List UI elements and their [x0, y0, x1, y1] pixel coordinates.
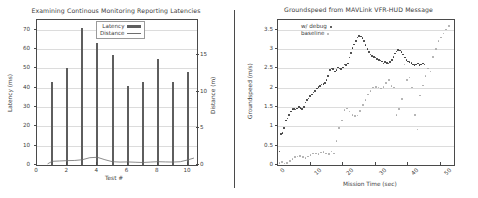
data-point-baseline [365, 99, 367, 101]
data-point-baseline [294, 156, 296, 158]
data-point-baseline [443, 33, 445, 35]
x-tick-mark [66, 162, 67, 165]
data-point-wdebug [309, 95, 311, 97]
data-point-baseline [346, 108, 348, 110]
data-point-wdebug [363, 40, 365, 42]
data-point-wdebug [381, 61, 383, 63]
data-point-wdebug [353, 44, 355, 46]
data-point-baseline [425, 75, 427, 77]
y-tick-mark [275, 125, 278, 126]
data-point-baseline [414, 114, 416, 116]
data-point-wdebug [402, 54, 404, 56]
x-tick-mark [157, 162, 158, 165]
data-point-baseline [409, 77, 411, 79]
x-tick-mark [407, 162, 408, 165]
x-tick-mark [440, 162, 441, 165]
data-point-wdebug [316, 88, 318, 90]
data-point-wdebug [401, 51, 403, 53]
data-point-baseline [284, 163, 286, 165]
y2-tick-label: 5 [200, 124, 204, 130]
data-point-baseline [307, 156, 309, 158]
latency-chart-title: Examining Continous Monitoring Reporting… [0, 7, 232, 14]
data-point-baseline [380, 88, 382, 90]
data-point-wdebug [394, 53, 396, 55]
data-point-wdebug [305, 102, 307, 104]
data-point-baseline [336, 140, 338, 142]
y2-tick-label: 15 [200, 51, 207, 57]
y-tick-mark [275, 106, 278, 107]
y2-tick-mark [196, 164, 199, 165]
data-point-wdebug [288, 114, 290, 116]
groundspeed-chart-title: Groundspeed from MAVLink VFR-HUD Message [239, 6, 478, 13]
data-point-baseline [406, 79, 408, 81]
data-point-wdebug [296, 108, 298, 110]
latency-plot-area [36, 19, 198, 166]
data-point-wdebug [283, 127, 285, 129]
data-point-wdebug [345, 64, 347, 66]
data-point-wdebug [311, 94, 313, 96]
y-tick-mark [34, 67, 37, 68]
data-point-baseline [419, 95, 421, 97]
data-point-wdebug [279, 151, 281, 153]
y-tick-label: 0.5 [255, 142, 273, 148]
data-point-baseline [297, 156, 299, 158]
y-tick-mark [34, 87, 37, 88]
y-tick-mark [275, 67, 278, 68]
data-point-baseline [430, 71, 432, 73]
latency-y-axis-label: Latency (ms) [7, 74, 13, 112]
y-tick-mark [34, 29, 37, 30]
y-tick-mark [275, 87, 278, 88]
data-point-baseline [333, 153, 335, 155]
y2-tick-label: 10 [200, 88, 207, 94]
y-tick-mark [34, 145, 37, 146]
x-tick-label: 2 [61, 167, 71, 173]
data-point-wdebug [424, 64, 426, 66]
x-tick-mark [310, 162, 311, 165]
data-point-baseline [396, 114, 398, 116]
data-point-baseline [417, 129, 419, 131]
legend-swatch-dot-light-icon [327, 33, 329, 35]
x-tick-label: 4 [91, 167, 101, 173]
data-point-baseline [367, 94, 369, 96]
x-tick-label: 40 [410, 167, 419, 176]
data-point-wdebug [287, 118, 289, 120]
gridline-horizontal [278, 126, 454, 127]
groundspeed-x-axis-label: Mission Time (sec) [343, 181, 397, 187]
y-tick-label: 20 [14, 122, 30, 128]
data-point-wdebug [324, 82, 326, 84]
data-point-baseline [338, 127, 340, 129]
gridline-horizontal [278, 146, 454, 147]
figure-divider [234, 10, 235, 188]
data-point-wdebug [313, 92, 315, 94]
y-tick-label: 1 [255, 122, 273, 128]
y-tick-label: 40 [14, 84, 30, 90]
x-tick-mark [342, 162, 343, 165]
data-point-baseline [438, 40, 440, 42]
data-point-wdebug [301, 108, 303, 110]
data-point-wdebug [336, 69, 338, 71]
data-point-baseline [279, 162, 281, 164]
data-point-wdebug [355, 40, 357, 42]
data-point-wdebug [388, 63, 390, 65]
data-point-wdebug [350, 52, 352, 54]
y-tick-label: 3.5 [255, 26, 273, 32]
data-point-baseline [328, 153, 330, 155]
x-tick-label: 8 [152, 167, 162, 173]
data-point-wdebug [326, 79, 328, 81]
data-point-baseline [401, 98, 403, 100]
data-point-wdebug [290, 111, 292, 113]
distance-line-overlay [37, 20, 197, 165]
data-point-baseline [331, 151, 333, 153]
y-tick-label: 10 [14, 142, 30, 148]
data-point-wdebug [282, 132, 284, 134]
data-point-baseline [385, 82, 387, 84]
distance-y-axis-label: Distance (m) [210, 76, 216, 113]
y-tick-label: 60 [14, 45, 30, 51]
data-point-baseline [427, 68, 429, 70]
data-point-wdebug [334, 71, 336, 73]
x-tick-label: 6 [122, 167, 132, 173]
data-point-wdebug [367, 48, 369, 50]
y2-tick-label: 0 [200, 161, 204, 167]
data-point-wdebug [383, 63, 385, 65]
data-point-baseline [370, 90, 372, 92]
